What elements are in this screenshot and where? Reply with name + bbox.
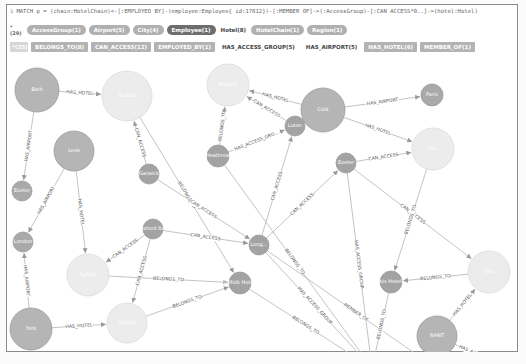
- node-caption: Ibis Hotels: [378, 278, 404, 284]
- relationship-edge[interactable]: BELONGS_TO: [224, 165, 364, 352]
- relationship-edge[interactable]: HAS_HOTEL: [76, 171, 85, 253]
- relationship-edge[interactable]: HAS_AIRPORT: [28, 168, 64, 232]
- node-caption: Leek: [68, 147, 80, 153]
- graph-node-group[interactable]: Ibis Hotels: [378, 271, 404, 293]
- relationship-label: CAN_ACCESS: [189, 199, 218, 221]
- relationship-edge[interactable]: HAS_AIRPORT: [345, 97, 420, 108]
- graph-node-city[interactable]: Cork: [301, 88, 345, 132]
- node-label-filter[interactable]: Hotel(8): [219, 25, 248, 35]
- relationship-type-filter[interactable]: EMPLOYED_BY(1): [154, 42, 215, 52]
- node-label-filter[interactable]: AccessGroup(1): [27, 25, 86, 35]
- relationship-label: CAN_ACCESS: [135, 255, 149, 286]
- graph-node-hotel[interactable]: Suffolk: [107, 303, 147, 343]
- relationship-edge[interactable]: CAN_ACCESS: [163, 230, 248, 243]
- relationship-type-filter[interactable]: HAS_ACCESS_GROUP(5): [218, 42, 299, 52]
- relationship-edge[interactable]: BELONGS_TO: [403, 273, 468, 282]
- relationship-edge[interactable]: HAS_ACCESS_GROUP: [347, 173, 370, 352]
- relationship-type-filter[interactable]: BELONGS_TO(8): [31, 42, 88, 52]
- relationship-edge[interactable]: HAS_HOTEL: [344, 117, 413, 141]
- graph-node-hotel[interactable]: Ibis: [468, 251, 510, 293]
- graph-node-airport[interactable]: London: [13, 232, 33, 252]
- node-caption: Suffolk: [79, 271, 96, 277]
- node-label-filter[interactable]: Employee(1): [167, 25, 216, 35]
- graph-node-hotel[interactable]: Suffolk: [102, 71, 152, 121]
- node-label-filter[interactable]: Region(1): [307, 25, 347, 35]
- relationship-type-filter[interactable]: MEMBER_OF(1): [420, 42, 475, 52]
- relationship-label: CAN_ACCESS: [270, 171, 285, 202]
- relationship-edge[interactable]: HAS_AIRPORT: [455, 343, 492, 352]
- relationship-label: BELONGS_TO: [283, 248, 306, 277]
- relationship-edge[interactable]: BELONGS_TO: [146, 287, 229, 316]
- relationship-count-badge[interactable]: *(35): [10, 42, 28, 52]
- relationship-edge[interactable]: HAS_AIRPORT: [22, 253, 31, 308]
- node-label-filter[interactable]: HotelChain(1): [251, 25, 304, 35]
- graph-node-city[interactable]: Bath: [15, 68, 59, 112]
- node-caption: Suffolk Hotels: [223, 279, 258, 285]
- relationship-label: CAN_ACCESS: [190, 232, 221, 242]
- relationship-edge[interactable]: CAN_ACCESS: [106, 235, 145, 263]
- graph-node-group[interactable]: Luton: [285, 116, 305, 136]
- relationship-label: BELONGS_TO: [217, 110, 227, 142]
- relationship-label: HAS_AIRPORT: [36, 185, 57, 216]
- prompt-icon: $: [10, 8, 13, 14]
- graph-node-hotel[interactable]: Suffolk: [67, 254, 109, 296]
- relationship-edge[interactable]: HAS_HOTEL: [59, 89, 101, 97]
- graph-node-airport[interactable]: Paris: [421, 84, 443, 106]
- relationship-edge[interactable]: HAS_ACCESS_GRO...: [228, 129, 285, 153]
- graph-canvas[interactable]: HAS_HOTELHAS_AIRPORTHAS_HOTELHAS_AIRPORT…: [7, 56, 519, 352]
- relationship-label: CAN_ACCESS: [368, 152, 399, 163]
- graph-node-city[interactable]: NANT: [417, 316, 457, 352]
- graph-node-hotel[interactable]: Novotel: [207, 64, 249, 106]
- relationship-type-filter[interactable]: CAN_ACCESS(12): [91, 42, 151, 52]
- graph-node-group[interactable]: Gatwick: [139, 164, 159, 184]
- graph-node-airport[interactable]: Exeter: [12, 181, 32, 201]
- relationship-edge[interactable]: BELONGS_TO: [109, 275, 228, 283]
- graph-node-city[interactable]: York: [10, 308, 52, 350]
- relationship-edge[interactable]: CAN_ACCESS: [262, 137, 292, 236]
- edges-layer: HAS_HOTELHAS_AIRPORTHAS_HOTELHAS_AIRPORT…: [22, 89, 492, 352]
- graph-node-group[interactable]: Heathrow: [206, 145, 230, 167]
- node-caption: London: [14, 238, 32, 244]
- relationship-edge[interactable]: BELONGS_TO: [375, 293, 389, 352]
- node-labels-legend: *(29) AccessGroup(1)Airport(5)City(4)Emp…: [10, 24, 347, 36]
- node-caption: Ibis: [429, 145, 438, 151]
- relationship-edge[interactable]: CAN_ACCESS: [157, 179, 249, 239]
- relationship-edge[interactable]: BELONGS_TO: [217, 107, 227, 145]
- graph-node-group[interactable]: Long...: [249, 235, 269, 255]
- relationship-edge[interactable]: HAS_AIRPORT: [23, 112, 34, 180]
- relationship-type-filter[interactable]: HAS_AIRPORT(5): [302, 42, 361, 52]
- graph-node-city[interactable]: Leek: [54, 131, 94, 171]
- relationship-label: BELONGS_TO: [291, 315, 320, 337]
- node-caption: Bath: [31, 86, 43, 92]
- relationship-label: BELONGS_TO: [172, 294, 203, 310]
- relationship-edge[interactable]: CAN_ACCESS: [356, 152, 411, 163]
- cypher-query-bar[interactable]: $MATCH p = (chain:HotelChain)<-[:EMPLOYE…: [10, 8, 515, 14]
- node-label-filter[interactable]: City(4): [133, 25, 164, 35]
- relationship-edge[interactable]: CAN_ACCESS: [133, 121, 147, 164]
- node-caption: Gatwick: [139, 170, 159, 176]
- relationship-label: HAS_HOTEL: [452, 292, 474, 317]
- node-caption: Novotel: [218, 81, 237, 87]
- node-caption: NANT: [430, 332, 445, 338]
- node-caption: Ibis: [485, 268, 494, 274]
- node-count-badge[interactable]: *(29): [10, 24, 24, 36]
- relationship-label: CAN_ACCESS: [289, 192, 315, 217]
- relationship-type-filter[interactable]: HAS_HOTEL(6): [364, 42, 417, 52]
- relationship-label: HAS_ACCESS_GRO...: [234, 130, 280, 153]
- node-caption: Suffolk: [118, 319, 135, 325]
- relationship-edge[interactable]: CAN_ACCESS: [133, 239, 151, 303]
- node-caption: Suffolk: [118, 92, 135, 98]
- relationship-label: CAN_ACCESS: [252, 98, 281, 119]
- node-caption: Paris: [426, 91, 438, 97]
- relationship-edge[interactable]: HAS_HOTEL: [450, 289, 476, 320]
- node-caption: Exeter: [338, 159, 355, 165]
- node-caption: Exeter: [14, 187, 31, 193]
- relationship-edge[interactable]: HAS_HOTEL: [52, 322, 106, 330]
- relationship-label: HAS_HOTEL: [364, 122, 392, 137]
- node-label-filter[interactable]: Airport(5): [89, 25, 130, 35]
- graph-node-hotel[interactable]: Ibis: [412, 128, 454, 170]
- node-caption: Long...: [251, 241, 268, 248]
- relationship-label: CAN_ACCESS: [133, 127, 147, 158]
- node-caption: Heathrow: [206, 152, 230, 158]
- graph-node-group[interactable]: Exeter: [336, 153, 356, 173]
